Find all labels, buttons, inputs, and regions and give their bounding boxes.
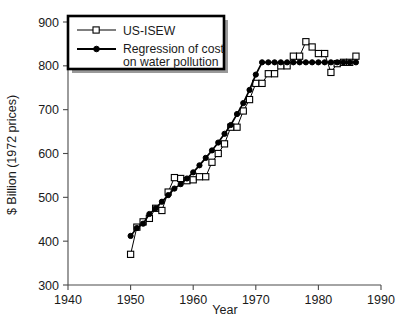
data-point-marker bbox=[291, 60, 296, 65]
data-point-marker bbox=[141, 221, 146, 226]
data-point-marker bbox=[240, 108, 246, 114]
y-tick-label: 400 bbox=[38, 235, 59, 249]
data-point-marker bbox=[303, 39, 309, 45]
x-tick-label: 1990 bbox=[367, 293, 395, 307]
data-point-marker bbox=[285, 60, 290, 65]
y-tick-label: 700 bbox=[38, 103, 59, 117]
data-point-marker bbox=[246, 96, 252, 102]
data-point-marker bbox=[259, 60, 264, 65]
line-chart: 300400500600700800900 194019501960197019… bbox=[0, 0, 404, 322]
y-tick-label: 800 bbox=[38, 59, 59, 73]
data-point-marker bbox=[222, 131, 227, 136]
data-point-marker bbox=[353, 53, 359, 59]
data-point-marker bbox=[322, 60, 327, 65]
x-tick-label: 1980 bbox=[304, 293, 332, 307]
data-point-marker bbox=[209, 148, 214, 153]
y-tick-label: 900 bbox=[38, 16, 59, 30]
y-axis-title: $ Billion (1972 prices) bbox=[5, 95, 19, 215]
y-tick-label: 300 bbox=[38, 279, 59, 293]
y-tick-label: 500 bbox=[38, 191, 59, 205]
data-point-marker bbox=[134, 225, 139, 230]
legend-label-us-isew: US-ISEW bbox=[123, 24, 176, 38]
data-point-marker bbox=[328, 69, 334, 75]
data-point-marker bbox=[310, 60, 315, 65]
data-point-marker bbox=[159, 207, 165, 213]
data-point-marker bbox=[215, 150, 221, 156]
x-tick-label: 1950 bbox=[117, 293, 145, 307]
data-point-marker bbox=[203, 155, 208, 160]
data-point-marker bbox=[272, 60, 277, 65]
data-point-marker bbox=[278, 60, 283, 65]
data-point-marker bbox=[290, 53, 296, 59]
series-line bbox=[131, 42, 356, 255]
data-point-marker bbox=[166, 193, 171, 198]
data-point-marker bbox=[297, 60, 302, 65]
x-tick-label: 1970 bbox=[242, 293, 270, 307]
data-point-marker bbox=[228, 122, 233, 127]
data-point-marker bbox=[196, 174, 202, 180]
data-point-marker bbox=[159, 199, 164, 204]
data-point-marker bbox=[297, 53, 303, 59]
data-point-marker bbox=[259, 80, 265, 86]
data-point-marker bbox=[216, 140, 221, 145]
data-point-marker bbox=[316, 60, 321, 65]
data-point-marker bbox=[128, 233, 133, 238]
legend-marker-filled-circle bbox=[94, 46, 100, 52]
data-point-marker bbox=[335, 60, 340, 65]
data-point-marker bbox=[178, 182, 183, 187]
data-point-marker bbox=[190, 177, 196, 183]
data-point-marker bbox=[328, 60, 333, 65]
data-point-marker bbox=[241, 100, 246, 105]
x-tick-label: 1960 bbox=[179, 293, 207, 307]
data-point-marker bbox=[234, 111, 239, 116]
y-tick-label: 600 bbox=[38, 147, 59, 161]
data-point-marker bbox=[172, 186, 177, 191]
legend-label-regression-line1: Regression of cost bbox=[123, 42, 225, 56]
x-tick-label: 1940 bbox=[54, 293, 82, 307]
data-point-marker bbox=[203, 174, 209, 180]
data-point-marker bbox=[147, 211, 152, 216]
data-point-marker bbox=[153, 206, 158, 211]
data-point-marker bbox=[253, 72, 258, 77]
data-point-marker bbox=[184, 176, 189, 181]
data-point-marker bbox=[221, 141, 227, 147]
legend-marker-open-square bbox=[93, 27, 99, 33]
x-axis-title: Year bbox=[212, 303, 237, 317]
chart-container: 300400500600700800900 194019501960197019… bbox=[0, 0, 404, 322]
data-point-marker bbox=[234, 124, 240, 130]
data-point-marker bbox=[341, 60, 346, 65]
data-point-marker bbox=[309, 44, 315, 50]
data-point-marker bbox=[191, 170, 196, 175]
data-point-marker bbox=[197, 163, 202, 168]
data-point-marker bbox=[347, 60, 352, 65]
data-point-marker bbox=[128, 251, 134, 257]
data-point-marker bbox=[303, 60, 308, 65]
data-point-marker bbox=[315, 50, 321, 56]
data-point-marker bbox=[265, 71, 271, 77]
chart-legend: US-ISEWRegression of coston water pollut… bbox=[68, 16, 228, 73]
data-point-marker bbox=[322, 50, 328, 56]
data-point-marker bbox=[353, 60, 358, 65]
data-point-marker bbox=[171, 175, 177, 181]
data-point-marker bbox=[266, 60, 271, 65]
data-point-marker bbox=[178, 175, 184, 181]
data-point-marker bbox=[209, 159, 215, 165]
legend-label-regression-line2: on water pollution bbox=[123, 55, 219, 69]
y-axis: 300400500600700800900 bbox=[38, 16, 68, 293]
data-point-marker bbox=[271, 71, 277, 77]
data-point-marker bbox=[247, 87, 252, 92]
